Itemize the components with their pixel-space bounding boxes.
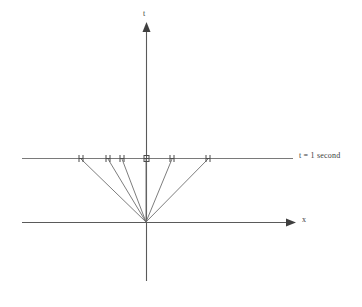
event-marker-3 bbox=[120, 155, 124, 162]
worldline-3 bbox=[122, 159, 146, 222]
worldline-5 bbox=[146, 159, 172, 222]
x-axis-label: x bbox=[302, 215, 306, 224]
x-axis-arrow-icon bbox=[286, 219, 296, 227]
constant-time-line-label: t = 1 second bbox=[299, 151, 340, 160]
spacetime-diagram: t x t = 1 second bbox=[0, 0, 362, 307]
t-axis-label: t bbox=[143, 9, 145, 18]
worldlines-group bbox=[81, 159, 208, 222]
event-marker-5 bbox=[170, 155, 174, 162]
t-axis-arrow-icon bbox=[143, 22, 151, 32]
worldline-6 bbox=[146, 159, 208, 222]
